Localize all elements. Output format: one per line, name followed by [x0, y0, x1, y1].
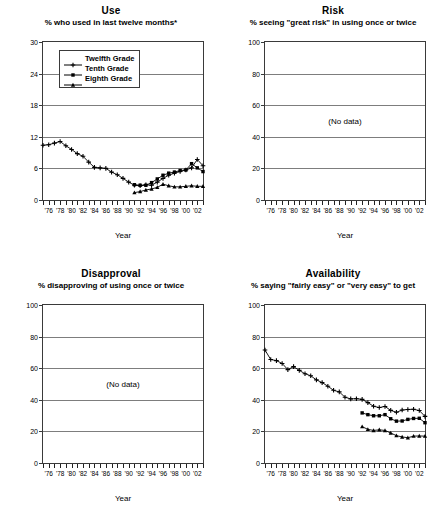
x-tick-mark [379, 201, 380, 205]
x-tick-mark [265, 201, 266, 205]
x-tick-mark [311, 464, 312, 468]
x-tick-mark [271, 464, 272, 468]
panel-title-disapproval: Disapproval [0, 267, 222, 280]
y-tick-mark [261, 42, 265, 43]
y-tick-label: 12 [4, 133, 38, 140]
no-data-label-disapproval: (No data) [43, 380, 203, 389]
y-tick-label: 0 [226, 197, 260, 204]
x-tick-mark [294, 464, 295, 468]
x-tick-label: '76 [266, 207, 274, 215]
x-tick-mark [288, 464, 289, 468]
x-tick-mark [163, 201, 164, 205]
x-tick-mark [89, 464, 90, 468]
y-tick-label: 20 [226, 165, 260, 172]
x-tick-mark [328, 464, 329, 468]
gridline [43, 400, 203, 401]
x-tick-label: '94 [369, 207, 377, 215]
x-tick-mark [197, 464, 198, 468]
x-tick-mark [351, 201, 352, 205]
panel-subtitle-use: % who used in last twelve months* [0, 17, 222, 29]
y-tick-mark [39, 337, 43, 338]
y-tick-mark [39, 368, 43, 369]
x-tick-mark [276, 201, 277, 205]
x-tick-label: '96 [381, 470, 389, 478]
x-tick-mark [294, 201, 295, 205]
x-tick-mark [414, 201, 415, 205]
x-tick-mark [146, 201, 147, 205]
x-tick-label: '78 [56, 207, 64, 215]
x-tick-label: '02 [193, 470, 201, 478]
x-tick-label: '02 [415, 207, 423, 215]
x-tick-label: '86 [102, 207, 110, 215]
x-tick-mark [72, 201, 73, 205]
y-tick-label: 80 [226, 333, 260, 340]
x-tick-label: '80 [289, 207, 297, 215]
x-tick-mark [299, 464, 300, 468]
x-tick-mark [66, 464, 67, 468]
panel-subtitle-risk: % seeing "great risk" in using once or t… [222, 17, 444, 29]
y-tick-label: 100 [4, 302, 38, 309]
x-tick-label: '94 [147, 470, 155, 478]
x-tick-mark [117, 201, 118, 205]
x-tick-mark [345, 464, 346, 468]
x-tick-labels-availability: '76'78'80'82'84'86'88'90'92'94'96'98'00'… [264, 470, 426, 480]
x-tick-mark [186, 464, 187, 468]
x-tick-mark [299, 201, 300, 205]
x-tick-mark [339, 201, 340, 205]
y-tick-label: 24 [4, 70, 38, 77]
panel-subtitle-disapproval: % disapproving of using once or twice [0, 280, 222, 292]
x-tick-label: '84 [90, 207, 98, 215]
plot-area-risk: (No data) 020406080100 '76'78'80'82'84'8… [222, 35, 444, 220]
x-tick-labels-disapproval: '76'78'80'82'84'86'88'90'92'94'96'98'00'… [42, 470, 204, 480]
x-tick-mark [368, 464, 369, 468]
x-tick-mark [282, 201, 283, 205]
gridline [43, 337, 203, 338]
y-tick-label: 40 [226, 396, 260, 403]
y-tick-label: 60 [4, 365, 38, 372]
x-tick-label: '88 [335, 470, 343, 478]
x-tick-mark [334, 201, 335, 205]
x-tick-marks-disapproval [42, 464, 204, 469]
x-tick-mark [339, 464, 340, 468]
x-tick-marks-availability [264, 464, 426, 469]
x-tick-mark [60, 201, 61, 205]
x-tick-mark [391, 201, 392, 205]
x-tick-label: '82 [79, 470, 87, 478]
x-tick-label: '78 [278, 207, 286, 215]
x-tick-label: '78 [56, 470, 64, 478]
gridline [265, 105, 425, 106]
x-tick-mark [106, 201, 107, 205]
panel-subtitle-availability: % saying "fairly easy" or "very easy" to… [222, 280, 444, 292]
y-tick-label: 80 [4, 333, 38, 340]
x-tick-mark [402, 201, 403, 205]
x-tick-mark [192, 464, 193, 468]
x-tick-mark [140, 464, 141, 468]
x-tick-labels-use: '76'78'80'82'84'86'88'90'92'94'96'98'00'… [42, 207, 204, 217]
panel-risk: Risk % seeing "great risk" in using once… [222, 0, 444, 262]
x-tick-label: '02 [193, 207, 201, 215]
y-tick-label: 20 [226, 428, 260, 435]
x-tick-label: '96 [159, 470, 167, 478]
x-tick-mark [146, 464, 147, 468]
x-tick-mark [49, 201, 50, 205]
panel-title-risk: Risk [222, 4, 444, 17]
x-tick-mark [203, 201, 204, 205]
y-tick-label: 40 [4, 396, 38, 403]
x-tick-mark [385, 464, 386, 468]
x-tick-mark [169, 201, 170, 205]
x-tick-label: '92 [358, 470, 366, 478]
x-tick-labels-risk: '76'78'80'82'84'86'88'90'92'94'96'98'00'… [264, 207, 426, 217]
legend-marker-square-icon [64, 65, 82, 73]
x-tick-mark [157, 201, 158, 205]
gridline [43, 431, 203, 432]
x-tick-mark [305, 201, 306, 205]
x-tick-mark [316, 201, 317, 205]
legend-item: Tenth Grade [64, 64, 134, 74]
legend-item-label: Eighth Grade [85, 75, 132, 83]
y-tick-label: 18 [4, 102, 38, 109]
y-tick-mark [261, 74, 265, 75]
x-tick-mark [368, 201, 369, 205]
x-tick-mark [123, 464, 124, 468]
x-tick-label: '96 [159, 207, 167, 215]
y-tick-mark [261, 137, 265, 138]
